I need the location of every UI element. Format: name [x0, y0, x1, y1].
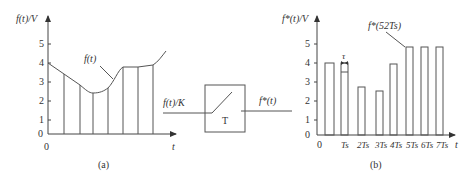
output-label: f*(t): [259, 95, 277, 107]
caption-b: (b): [370, 159, 382, 171]
x-axis-label-b: t: [455, 139, 458, 150]
pulse-width-label: τ: [342, 51, 346, 61]
sample-lines: [64, 65, 153, 134]
annotation-leader: [386, 32, 405, 47]
y-tick-5: 5: [39, 38, 44, 49]
y-axis-label-b: f*(t)/V: [282, 13, 310, 25]
input-label: f(t)/K: [163, 97, 186, 109]
x-tick-0: 0: [317, 139, 322, 150]
y-tick-0-b: 0: [305, 129, 310, 140]
continuous-signal-curve: [48, 51, 166, 93]
y-tick-5-b: 5: [305, 38, 310, 49]
caption-a: (a): [98, 159, 109, 171]
sampling-diagram: 5 4 3 2 1 0 0 t f(t)/V f(t) (a) f(t)/K T…: [0, 0, 467, 181]
x-tick-6: 6Ts: [421, 140, 434, 150]
y-axis-label-a: f(t)/V: [16, 13, 39, 25]
origin-label: 0: [44, 141, 49, 152]
x-tick-5: 5Ts: [406, 140, 419, 150]
curve-label: f(t): [84, 53, 97, 65]
curve-label-leader: [100, 66, 113, 79]
x-tick-7: 7Ts: [436, 140, 449, 150]
y-tick-4: 4: [39, 57, 44, 68]
y-tick-0: 0: [38, 128, 43, 139]
annotation-label: f*(52Ts): [368, 20, 402, 32]
y-tick-3: 3: [39, 76, 44, 87]
x-tick-4: 4Ts: [390, 140, 403, 150]
y-tick-1: 1: [39, 114, 44, 125]
panel-a: 5 4 3 2 1 0 0 t f(t)/V f(t) (a): [16, 13, 176, 171]
x-tick-2: 2Ts: [357, 140, 370, 150]
x-tick-1: Ts: [341, 140, 349, 150]
y-tick-2: 2: [39, 95, 44, 106]
panel-b: 5 4 3 2 1 0 f*(t)/V τ f*(52Ts) 0 Ts: [282, 13, 458, 171]
pulse-width-marker: [341, 61, 348, 65]
sampler-block: f(t)/K T f*(t): [163, 85, 292, 132]
switch-label: T: [222, 115, 228, 126]
y-tick-3-b: 3: [305, 76, 310, 87]
x-tick-3: 3Ts: [374, 140, 388, 150]
switch-icon: [212, 92, 232, 113]
y-tick-4-b: 4: [305, 57, 310, 68]
y-tick-2-b: 2: [305, 95, 310, 106]
x-axis-label-a: t: [172, 141, 175, 152]
y-tick-1-b: 1: [305, 114, 310, 125]
